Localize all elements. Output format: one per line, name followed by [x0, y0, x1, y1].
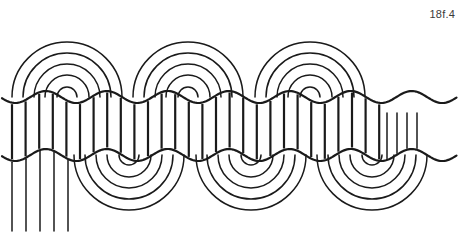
figure-root: 18f.4: [0, 0, 465, 237]
ornament-pattern-drawing: [0, 0, 465, 237]
figure-caption: 18f.4: [430, 8, 455, 20]
canvas-background: [0, 0, 465, 237]
